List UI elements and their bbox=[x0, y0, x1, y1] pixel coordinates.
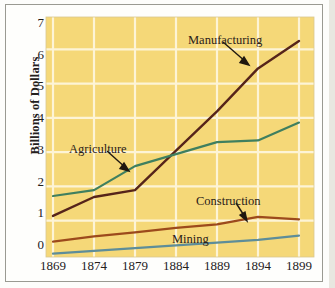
plot-area bbox=[6, 5, 324, 283]
page-edge bbox=[329, 0, 335, 288]
annotation-label-agriculture: Agriculture bbox=[69, 143, 127, 156]
annotation-label-mining: Mining bbox=[172, 233, 209, 246]
chart-frame: Billions of Dollars 7 6 5 4 3 2 1 0 1869… bbox=[5, 4, 323, 282]
annotation-label-construction: Construction bbox=[196, 195, 261, 208]
chart-figure: Billions of Dollars 7 6 5 4 3 2 1 0 1869… bbox=[0, 0, 335, 288]
annotation-label-manufacturing: Manufacturing bbox=[188, 34, 262, 47]
